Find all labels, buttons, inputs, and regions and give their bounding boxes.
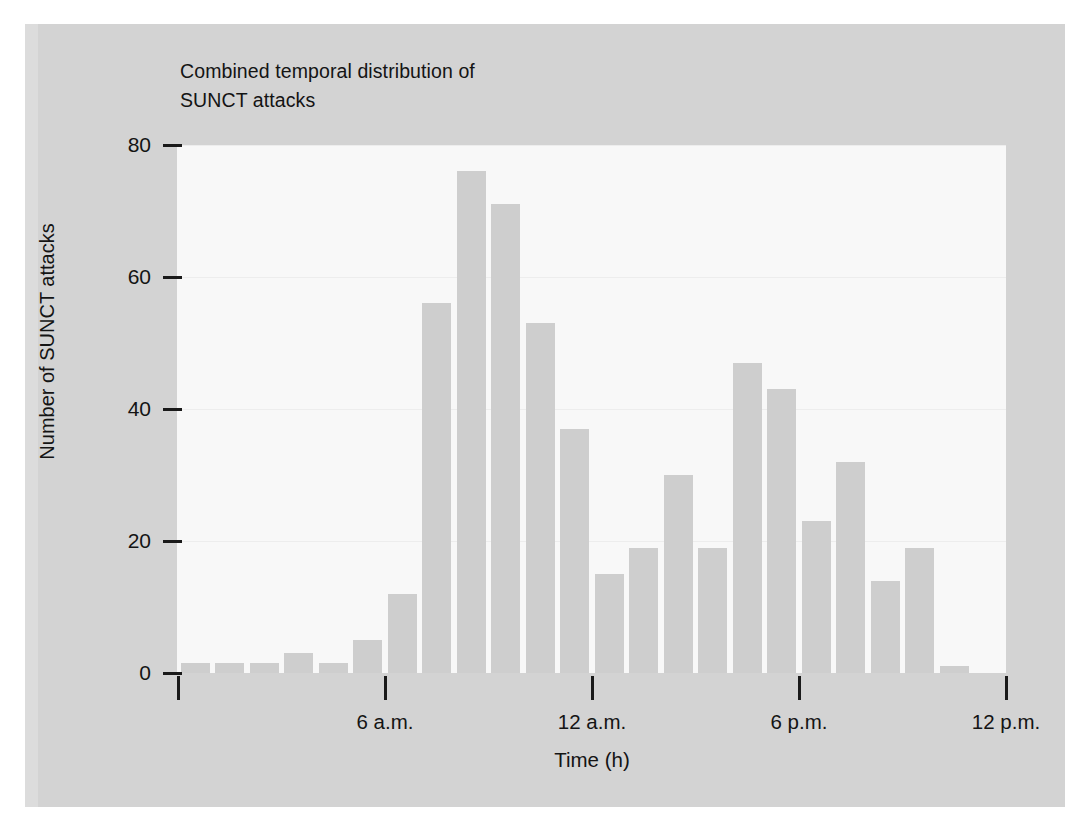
bar [836, 462, 865, 673]
bar [353, 640, 382, 673]
bar [560, 429, 589, 673]
y-axis-title: Number of SUNCT attacks [36, 132, 59, 552]
bar [802, 521, 831, 673]
x-axis-tick [1005, 676, 1008, 700]
x-axis-title: Time (h) [178, 748, 1006, 772]
bar [250, 663, 279, 673]
y-axis-tick-label: 60 [91, 266, 151, 287]
bars-layer [178, 145, 1006, 673]
y-axis-tick [163, 408, 182, 411]
chart-title: Combined temporal distribution of SUNCT … [180, 57, 600, 115]
x-axis-tick [798, 676, 801, 700]
bar [664, 475, 693, 673]
x-axis-tick-label: 12 p.m. [926, 710, 1086, 734]
x-axis-tick-label: 6 a.m. [305, 710, 465, 734]
bar [284, 653, 313, 673]
y-axis-tick [163, 276, 182, 279]
bar [491, 204, 520, 673]
x-axis-tick-label: 12 a.m. [512, 710, 672, 734]
x-axis-tick-label: 6 p.m. [719, 710, 879, 734]
bar [871, 581, 900, 673]
y-axis-tick-label: 20 [91, 530, 151, 551]
bar [595, 574, 624, 673]
bar [388, 594, 417, 673]
y-axis-tick [163, 540, 182, 543]
bar [767, 389, 796, 673]
bar [629, 548, 658, 673]
y-axis-tick [163, 144, 182, 147]
bar [733, 363, 762, 673]
bar [905, 548, 934, 673]
bar [422, 303, 451, 673]
figure-root: Combined temporal distribution of SUNCT … [0, 0, 1089, 830]
x-axis-tick [177, 676, 180, 700]
bar [215, 663, 244, 673]
y-axis-tick [163, 672, 182, 675]
y-axis-tick-label: 40 [91, 398, 151, 419]
bar [698, 548, 727, 673]
y-axis-tick-label: 80 [91, 134, 151, 155]
y-axis-tick-label: 0 [91, 662, 151, 683]
bar [526, 323, 555, 673]
bar [457, 171, 486, 673]
bar [940, 666, 969, 673]
bar [319, 663, 348, 673]
bar [181, 663, 210, 673]
plot-area [178, 145, 1006, 673]
x-axis-tick [591, 676, 594, 700]
x-axis-tick [384, 676, 387, 700]
